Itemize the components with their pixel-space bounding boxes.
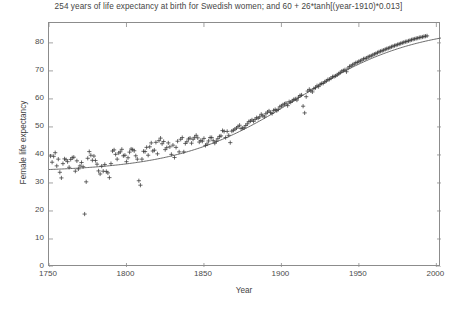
chart-figure: 254 years of life expectancy at birth fo… (0, 0, 457, 309)
x-tick-label: 2000 (415, 270, 455, 278)
y-tick-label: 80 (22, 38, 44, 46)
y-axis-tick-marks (49, 43, 441, 267)
plot-canvas (49, 23, 441, 267)
scatter-plus-markers (49, 34, 429, 216)
x-tick-label: 1950 (338, 270, 378, 278)
x-tick-label: 1800 (105, 270, 145, 278)
plot-area (48, 22, 440, 266)
y-axis-label: Female life expectancy (19, 73, 28, 213)
x-tick-label: 1750 (28, 270, 68, 278)
x-tick-label: 1900 (260, 270, 300, 278)
x-tick-label: 1850 (183, 270, 223, 278)
chart-title: 254 years of life expectancy at birth fo… (0, 2, 457, 11)
x-axis-tick-labels: 175018001850190019502000 (0, 270, 457, 282)
x-axis-label: Year (48, 286, 440, 295)
y-tick-label: 10 (22, 234, 44, 242)
fitted-tanh-curve (49, 38, 441, 170)
x-axis-tick-marks (49, 23, 436, 267)
